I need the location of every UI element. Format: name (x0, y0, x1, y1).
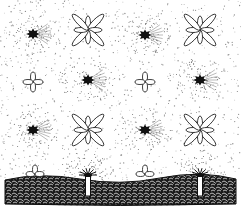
big-flower-motif (182, 112, 217, 147)
illustration-svg (0, 0, 241, 212)
big-flower-motif (182, 12, 217, 47)
blob-motif (81, 70, 106, 90)
blob-motif (193, 70, 218, 90)
big-flower-motif (70, 112, 105, 147)
small-cross-motif (135, 72, 155, 92)
patterned-illustration (0, 0, 241, 212)
ground-flower-motif (26, 165, 44, 177)
ground-flower-motif (136, 165, 154, 177)
blob-motif (138, 120, 163, 140)
big-flower-motif (70, 12, 105, 47)
blob-motif (26, 120, 51, 140)
small-cross-motif (23, 72, 43, 92)
